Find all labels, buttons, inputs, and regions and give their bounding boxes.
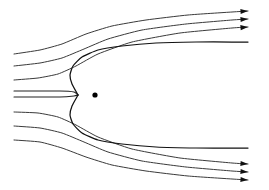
flow-field-plot bbox=[0, 0, 269, 190]
source-point-marker bbox=[92, 92, 97, 97]
marker-layer bbox=[92, 92, 97, 97]
streamline-figure bbox=[0, 0, 269, 190]
